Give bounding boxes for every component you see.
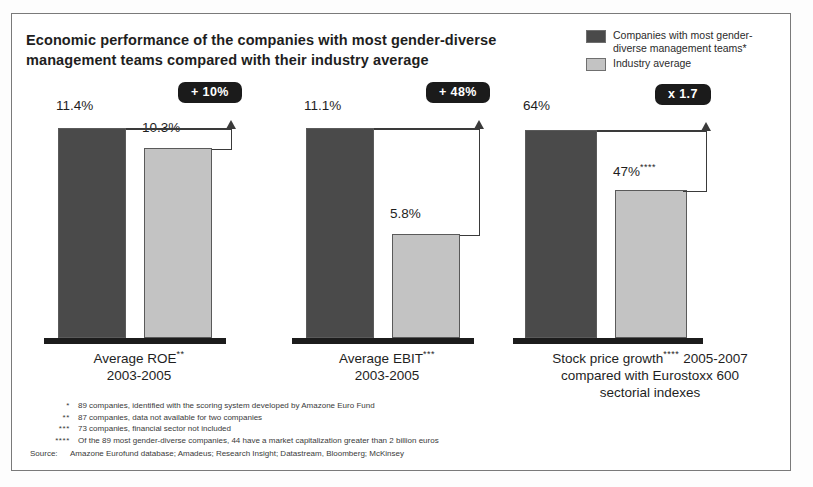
footnote-row: **** Of the 89 most gender-diverse compa… [30,435,770,447]
connector-roe-top [126,128,232,130]
connector-ebit-bottom [460,235,480,237]
category-caption-stock-sup: **** [663,349,679,359]
bar-stock-diverse [525,130,597,338]
bar-roe-industry [144,148,212,338]
bar-ebit-industry [392,234,460,338]
category-caption-stock-text: Stock price growth [552,351,663,366]
category-caption-stock: Stock price growth**** 2005-2007 compare… [505,346,795,401]
category-caption-ebit-line-2: 2003-2005 [282,367,492,384]
bar-stock-industry [615,190,687,338]
value-label-roe-diverse: 11.4% [56,98,93,113]
footnote-row: *** 73 companies, financial sector not i… [30,423,770,435]
value-label-stock-diverse: 64% [523,98,550,113]
connector-ebit-top [374,128,480,130]
category-caption-ebit-text: Average EBIT [339,351,423,366]
connector-ebit-arrow-icon [474,120,484,129]
footnote-mark: **** [30,435,78,447]
bar-roe-diverse [58,128,126,338]
baseline-stock [513,338,703,344]
baseline-ebit [292,338,474,344]
connector-stock-top [597,130,707,132]
bar-group-ebit: 11.1% 5.8% + 48% [282,90,492,390]
category-caption-stock-line-1: Stock price growth**** 2005-2007 [505,346,795,367]
chart-legend: Companies with most gender- diverse mana… [586,29,801,74]
category-caption-roe-text: Average ROE [93,351,176,366]
footnote-text: 73 companies, financial sector not inclu… [78,423,770,435]
value-label-ebit-industry: 5.8% [390,206,421,221]
footnote-text: 89 companies, identified with the scorin… [78,400,770,412]
legend-label-diverse-companies: Companies with most gender- diverse mana… [613,29,752,54]
category-caption-ebit-sup: *** [423,349,435,359]
footnote-mark: ** [30,412,78,424]
footnote-row: ** 87 companies, data not available for … [30,412,770,424]
category-caption-roe: Average ROE** 2003-2005 [34,346,244,384]
connector-stock-vertical [706,130,708,192]
connector-roe-vertical [231,128,233,150]
page-title: Economic performance of the companies wi… [26,30,566,70]
footnote-text: 87 companies, data not available for two… [78,412,770,424]
legend-label-line-2: diverse management teams* [613,42,747,54]
footnote-mark: *** [30,423,78,435]
source-row: Source: Amazone Eurofund database; Amade… [30,448,770,460]
value-label-ebit-diverse: 11.1% [304,98,341,113]
legend-swatch-light-icon [586,58,606,71]
category-caption-roe-sup: ** [177,349,185,359]
connector-stock-bottom [683,191,707,193]
category-caption-roe-line-1: Average ROE** [34,346,244,367]
footnote-row: * 89 companies, identified with the scor… [30,400,770,412]
bar-group-stock: 64% 47%**** x 1.7 [519,90,739,390]
footnote-mark: * [30,400,78,412]
value-label-stock-industry-sup: **** [640,162,656,172]
connector-roe-bottom [212,149,232,151]
source-text: Amazone Eurofund database; Amadeus; Rese… [70,448,770,460]
legend-label-industry-average: Industry average [613,57,691,70]
legend-item-industry-average: Industry average [586,57,801,71]
bar-ebit-diverse [306,128,374,338]
legend-swatch-dark-icon [586,30,606,43]
chart-plot-area: 11.4% 10.3% + 10% 11.1% 5.8% + 48% [14,90,789,390]
category-caption-ebit-line-1: Average EBIT*** [282,346,492,367]
footnote-text: Of the 89 most gender-diverse companies,… [78,435,770,447]
category-caption-roe-line-2: 2003-2005 [34,367,244,384]
page-title-line-1: Economic performance of the companies wi… [26,30,566,50]
slide-canvas: Economic performance of the companies wi… [0,0,813,487]
connector-ebit-vertical [479,128,481,236]
baseline-roe [44,338,226,344]
page-title-line-2: management teams compared with their ind… [26,50,566,70]
value-label-stock-industry-text: 47% [613,164,640,179]
legend-label-line-1: Companies with most gender- [613,29,752,41]
value-label-stock-industry: 47%**** [613,162,656,179]
category-caption-stock-line-3: sectorial indexes [505,384,795,401]
bar-group-roe: 11.4% 10.3% + 10% [34,90,244,390]
category-caption-stock-line-2: compared with Eurostoxx 600 [505,367,795,384]
badge-ebit: + 48% [426,82,490,103]
connector-stock-arrow-icon [701,122,711,131]
category-caption-ebit: Average EBIT*** 2003-2005 [282,346,492,384]
source-label: Source: [30,448,70,460]
connector-roe-arrow-icon [226,120,236,129]
category-caption-stock-tail: 2005-2007 [679,351,747,366]
badge-stock: x 1.7 [655,84,711,105]
footnotes-block: * 89 companies, identified with the scor… [30,400,770,459]
legend-item-diverse-companies: Companies with most gender- diverse mana… [586,29,801,54]
badge-roe: + 10% [178,82,242,103]
